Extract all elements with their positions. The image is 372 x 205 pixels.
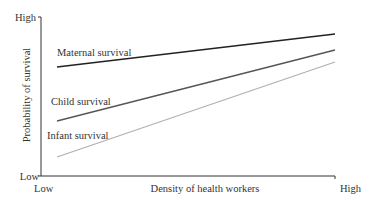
x-tick-low: Low — [34, 183, 54, 194]
y-tick-high: High — [15, 12, 37, 23]
infant-survival-label: Infant survival — [47, 130, 109, 141]
y-axis-title: Probability of survival — [21, 48, 32, 143]
chart: High Low Low High Density of health work… — [0, 0, 372, 205]
x-axis-title: Density of health workers — [151, 183, 260, 194]
infant-survival-line — [57, 62, 335, 157]
child-survival-label: Child survival — [51, 96, 111, 107]
x-tick-high: High — [340, 183, 362, 194]
maternal-survival-label: Maternal survival — [57, 47, 131, 58]
child-survival-line — [57, 50, 335, 121]
y-tick-low: Low — [20, 171, 40, 182]
